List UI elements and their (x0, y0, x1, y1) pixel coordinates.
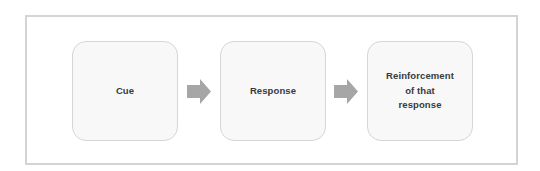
step-reinforcement-label: Reinforcement of that response (386, 69, 454, 113)
step-response: Response (220, 41, 326, 141)
step-reinforcement-line: Reinforcement (386, 69, 454, 84)
step-cue: Cue (72, 41, 178, 141)
step-reinforcement-line: response (386, 98, 454, 113)
arrow-right-icon (187, 79, 211, 104)
step-reinforcement-line: of that (386, 84, 454, 99)
step-response-label: Response (250, 84, 296, 99)
step-reinforcement: Reinforcement of that response (367, 41, 473, 141)
step-cue-label: Cue (116, 84, 134, 99)
arrow-right-icon (334, 79, 358, 104)
